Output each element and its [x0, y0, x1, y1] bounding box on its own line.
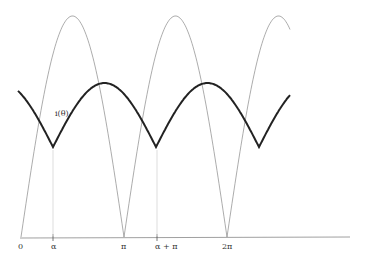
- x-axis: [20, 237, 350, 238]
- label-alpha: α: [51, 242, 57, 251]
- waveform-diagram: i(θ) 0 α π α + π 2π: [0, 0, 365, 261]
- curve-label: i(θ): [55, 109, 69, 118]
- label-pi: π: [121, 242, 126, 251]
- label-zero: 0: [18, 242, 23, 251]
- label-two-pi: 2π: [222, 242, 232, 251]
- rectified-sine-curve: [21, 16, 290, 237]
- label-alpha-plus-pi: α + π: [155, 242, 177, 251]
